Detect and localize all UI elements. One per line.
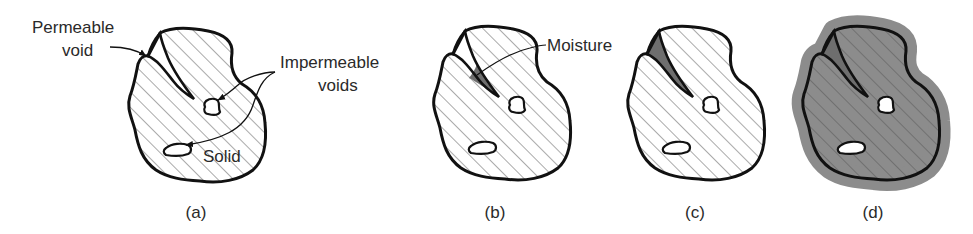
panel-c [628, 26, 765, 180]
label-moisture: Moisture [547, 36, 612, 55]
aggregate-moisture-diagram: Permeable void Impermeable voids Solid M… [0, 0, 973, 234]
label-voids: voids [318, 76, 358, 95]
label-void: void [62, 41, 93, 60]
panel-d [803, 26, 940, 180]
caption-b: (b) [485, 203, 506, 222]
caption-c: (c) [685, 203, 705, 222]
label-solid: Solid [203, 147, 241, 166]
label-permeable: Permeable [32, 18, 114, 37]
caption-a: (a) [186, 203, 207, 222]
caption-d: (d) [863, 203, 884, 222]
impermeable-void [204, 99, 220, 115]
label-impermeable: Impermeable [280, 53, 379, 72]
impermeable-void [164, 144, 191, 156]
permeable-void-arrow [110, 47, 146, 56]
panel-a [129, 28, 266, 182]
